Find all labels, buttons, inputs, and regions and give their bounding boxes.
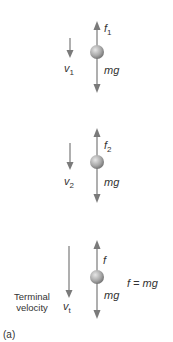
terminal-velocity-caption: Terminal velocity [8, 291, 56, 313]
caption-line-2: velocity [8, 302, 56, 313]
weight-arrow-2 [94, 168, 101, 203]
drag-force-label-1: f1 [104, 22, 112, 36]
drag-force-arrow-2 [94, 128, 101, 156]
ball-icon [90, 155, 104, 169]
equation-label: f = mg [127, 277, 158, 289]
velocity-label-1: v1 [64, 62, 74, 76]
velocity-arrow-2 [67, 143, 74, 170]
caption-line-1: Terminal [8, 291, 56, 302]
velocity-arrow-3 [66, 246, 73, 298]
velocity-label-3: vt [63, 300, 71, 314]
ball-icon [90, 45, 104, 59]
drag-force-arrow-1 [94, 21, 101, 46]
stage-1 [67, 21, 105, 93]
weight-label-2: mg [104, 176, 119, 188]
weight-label-3: mg [104, 289, 119, 301]
drag-force-label-3: f [103, 254, 106, 268]
weight-arrow-1 [94, 58, 101, 93]
weight-arrow-3 [94, 283, 101, 319]
drag-force-label-2: f2 [104, 139, 112, 153]
velocity-label-2: v2 [64, 175, 74, 189]
velocity-arrow-1 [67, 38, 74, 58]
stage-3 [66, 240, 105, 319]
panel-label: (a) [3, 329, 15, 341]
stage-2 [67, 128, 105, 203]
ball-icon [90, 270, 104, 284]
weight-label-1: mg [104, 64, 119, 76]
drag-force-arrow-3 [94, 240, 101, 271]
